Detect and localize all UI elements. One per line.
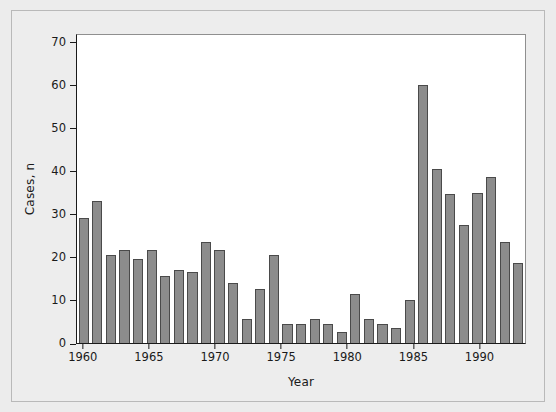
x-axis-title: Year <box>76 375 526 389</box>
bar-slot <box>335 35 349 343</box>
x-axis-tick-label: 1980 <box>333 352 362 364</box>
bar <box>269 255 279 343</box>
x-axis-tick-mark <box>215 344 216 349</box>
figure: Cases, n 010203040506070 196019651970197… <box>0 0 556 412</box>
bar <box>133 259 143 343</box>
bar <box>160 276 170 343</box>
bar-slot <box>145 35 159 343</box>
bar <box>106 255 116 343</box>
bar-slot <box>77 35 91 343</box>
x-axis-tick-mark <box>479 344 480 349</box>
bar-slot <box>512 35 526 343</box>
bar <box>323 324 333 343</box>
bar-slot <box>199 35 213 343</box>
bar-slot <box>308 35 322 343</box>
x-axis-tick-mark <box>413 344 414 349</box>
bar <box>472 193 482 343</box>
x-axis-tick-mark <box>148 344 149 349</box>
bar <box>513 263 523 343</box>
x-axis-tick-label: 1970 <box>200 352 229 364</box>
bar <box>92 201 102 343</box>
bar-slot <box>389 35 403 343</box>
bar <box>459 225 469 343</box>
x-axis-tick: 1985 <box>399 344 428 364</box>
bar-slot <box>267 35 281 343</box>
x-axis-tick: 1975 <box>267 344 296 364</box>
bar <box>432 169 442 343</box>
bar <box>500 242 510 343</box>
bar-slot <box>416 35 430 343</box>
y-axis-tick-label: 70 <box>51 37 70 49</box>
x-axis-tick-label: 1965 <box>134 352 163 364</box>
bar <box>79 218 89 343</box>
bar-slot <box>444 35 458 343</box>
y-axis-tick-label: 60 <box>51 80 70 92</box>
bar-slot <box>172 35 186 343</box>
bar <box>174 270 184 343</box>
bar <box>296 324 306 343</box>
bar-slot <box>471 35 485 343</box>
bar-slot <box>226 35 240 343</box>
bar-slot <box>104 35 118 343</box>
x-axis-tick-mark <box>82 344 83 349</box>
bar <box>337 332 347 343</box>
bar-slot <box>362 35 376 343</box>
bar <box>486 177 496 343</box>
x-axis-tick-label: 1960 <box>68 352 97 364</box>
bar-slot <box>91 35 105 343</box>
bar <box>201 242 211 343</box>
bar-slot <box>186 35 200 343</box>
bar-slot <box>213 35 227 343</box>
x-axis-tick: 1960 <box>68 344 97 364</box>
bar-slot <box>430 35 444 343</box>
bar <box>391 328 401 343</box>
y-axis-tick-label: 20 <box>51 252 70 264</box>
y-axis-tick-label: 50 <box>51 123 70 135</box>
x-axis-ticks: 1960196519701975198019851990 <box>76 344 526 370</box>
y-axis-ticks: 010203040506070 <box>0 0 76 412</box>
bar-slot <box>281 35 295 343</box>
x-axis-tick-label: 1990 <box>465 352 494 364</box>
y-axis-tick-label: 30 <box>51 209 70 221</box>
bar <box>445 194 455 343</box>
bar <box>350 294 360 344</box>
bar <box>255 289 265 343</box>
bar <box>418 85 428 343</box>
plot-area <box>76 34 526 344</box>
bar-slot <box>131 35 145 343</box>
bar-slot <box>349 35 363 343</box>
x-axis-tick: 1970 <box>200 344 229 364</box>
x-axis-tick: 1980 <box>333 344 362 364</box>
x-axis-tick: 1965 <box>134 344 163 364</box>
bar <box>214 250 224 343</box>
bar <box>364 319 374 343</box>
bar <box>242 319 252 343</box>
bar-slot <box>376 35 390 343</box>
bar-slot <box>254 35 268 343</box>
bar <box>310 319 320 343</box>
bar <box>405 300 415 343</box>
x-axis-tick-mark <box>281 344 282 349</box>
bar-slot <box>321 35 335 343</box>
bar-series <box>77 35 525 343</box>
x-axis-tick-mark <box>347 344 348 349</box>
bar-slot <box>403 35 417 343</box>
bar <box>377 324 387 343</box>
bar <box>147 250 157 343</box>
x-axis-tick-label: 1985 <box>399 352 428 364</box>
bar-slot <box>158 35 172 343</box>
bar <box>187 272 197 343</box>
bar-slot <box>294 35 308 343</box>
bar-slot <box>457 35 471 343</box>
x-axis-tick-label: 1975 <box>267 352 296 364</box>
bar <box>119 250 129 343</box>
bar-slot <box>240 35 254 343</box>
bar <box>228 283 238 343</box>
bar-slot <box>118 35 132 343</box>
bar <box>282 324 292 343</box>
bar-slot <box>498 35 512 343</box>
y-axis-tick-label: 40 <box>51 166 70 178</box>
bar-slot <box>484 35 498 343</box>
x-axis-tick: 1990 <box>465 344 494 364</box>
y-axis-tick-label: 10 <box>51 295 70 307</box>
